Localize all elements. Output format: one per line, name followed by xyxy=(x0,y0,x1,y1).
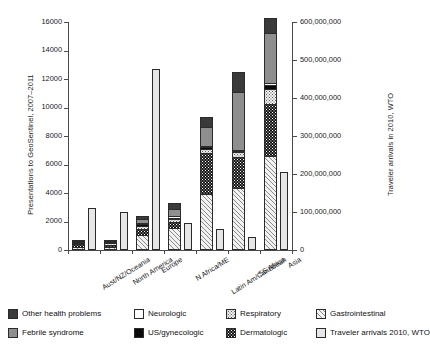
bar-segment-usgyn[interactable] xyxy=(232,152,245,154)
stacked-bar[interactable] xyxy=(72,240,85,250)
bar-segment-febrile[interactable] xyxy=(72,242,85,243)
y-axis-right-title: Traveler arrivals in 2010, WTO xyxy=(386,60,395,230)
bar-segment-febrile[interactable] xyxy=(200,128,213,147)
y-tick-label-right: 200,000,000 xyxy=(300,170,370,178)
x-tick xyxy=(292,250,293,254)
bar-segment-resp[interactable] xyxy=(232,153,245,158)
bar-segment-derm[interactable] xyxy=(232,158,245,189)
bar-segment-febrile[interactable] xyxy=(136,220,149,224)
bar-segment-gi[interactable] xyxy=(104,248,117,250)
bar-segment-febrile[interactable] xyxy=(232,93,245,150)
traveler-arrivals-bar[interactable] xyxy=(120,212,128,250)
bar-segment-derm[interactable] xyxy=(168,223,181,229)
legend-swatch-neuro-icon xyxy=(134,309,144,319)
y-tick-right xyxy=(293,250,297,251)
legend-item-neuro[interactable]: Neurologic xyxy=(134,307,186,321)
y-tick-label-right: 600,000,000 xyxy=(300,18,370,26)
bar-segment-other[interactable] xyxy=(168,204,181,210)
bar-segment-derm[interactable] xyxy=(264,105,277,157)
bar-segment-febrile[interactable] xyxy=(104,242,117,244)
y-tick-label-left: 8000 xyxy=(2,132,62,140)
y-tick-label-right: 400,000,000 xyxy=(300,94,370,102)
bar-segment-gi[interactable] xyxy=(264,157,277,250)
y-tick-label-left: 6000 xyxy=(2,160,62,168)
bar-segment-other[interactable] xyxy=(264,19,277,34)
x-category-label: Asia xyxy=(286,255,303,270)
bar-segment-derm[interactable] xyxy=(136,230,149,236)
bar-segment-neuro[interactable] xyxy=(264,84,277,86)
x-tick xyxy=(132,250,133,254)
legend-label: Neurologic xyxy=(148,309,186,319)
y-tick-label-left: 2000 xyxy=(2,217,62,225)
legend-swatch-febrile-icon xyxy=(8,328,18,338)
traveler-arrivals-bar[interactable] xyxy=(184,223,192,250)
legend-row: Febrile syndromeUS/gynecologicDermatolog… xyxy=(8,326,406,342)
y-tick-left xyxy=(64,222,68,223)
x-tick xyxy=(100,250,101,254)
stacked-bar[interactable] xyxy=(232,73,245,250)
bar-segment-neuro[interactable] xyxy=(232,151,245,152)
legend-swatch-travel-icon xyxy=(316,328,326,338)
bar-segment-other[interactable] xyxy=(200,118,213,128)
traveler-arrivals-bar[interactable] xyxy=(280,172,288,250)
y-tick-label-right: 300,000,000 xyxy=(300,132,370,140)
bar-segment-usgyn[interactable] xyxy=(264,86,277,90)
bar-segment-neuro[interactable] xyxy=(200,147,213,148)
bar-segment-gi[interactable] xyxy=(232,189,245,250)
bar-segment-usgyn[interactable] xyxy=(200,148,213,150)
bar-segment-resp[interactable] xyxy=(264,90,277,105)
bar-segment-other[interactable] xyxy=(72,240,85,241)
bar-segment-gi[interactable] xyxy=(136,236,149,250)
y-tick-label-right: 0 xyxy=(300,246,370,254)
bar-segment-neuro[interactable] xyxy=(136,224,149,225)
legend-item-febrile[interactable]: Febrile syndrome xyxy=(8,326,84,340)
bar-segment-derm[interactable] xyxy=(104,246,117,248)
stacked-bar[interactable] xyxy=(264,19,277,250)
bar-segment-resp[interactable] xyxy=(104,244,117,245)
bar-segment-usgyn[interactable] xyxy=(168,219,181,221)
x-category-label: SS Africa xyxy=(256,255,286,278)
legend-item-travel[interactable]: Traveler arrivals 2010, WTO xyxy=(316,326,430,340)
traveler-arrivals-bar[interactable] xyxy=(88,208,96,250)
stacked-bar[interactable] xyxy=(168,204,181,250)
stacked-bar[interactable] xyxy=(200,118,213,250)
legend-item-other[interactable]: Other health problems xyxy=(8,307,101,321)
bar-segment-resp[interactable] xyxy=(136,227,149,230)
traveler-arrivals-bar[interactable] xyxy=(248,237,256,250)
bar-top-edge xyxy=(264,18,277,19)
y-tick-right xyxy=(293,98,297,99)
bar-segment-gi[interactable] xyxy=(72,248,85,250)
legend-item-gi[interactable]: Gastrointestinal xyxy=(316,307,386,321)
bar-segment-derm[interactable] xyxy=(72,245,85,248)
bar-segment-resp[interactable] xyxy=(200,150,213,154)
legend-item-derm[interactable]: Dermatologic xyxy=(226,326,287,340)
legend-swatch-derm-icon xyxy=(226,328,236,338)
legend-item-usgyn[interactable]: US/gynecologic xyxy=(134,326,204,340)
bar-segment-gi[interactable] xyxy=(200,195,213,250)
bar-segment-resp[interactable] xyxy=(168,220,181,223)
traveler-arrivals-bar[interactable] xyxy=(152,69,160,250)
stacked-bar[interactable] xyxy=(104,240,117,250)
y-tick-label-right: 100,000,000 xyxy=(300,208,370,216)
traveler-arrivals-bar[interactable] xyxy=(216,229,224,250)
bar-segment-febrile[interactable] xyxy=(168,210,181,217)
x-category-label: N Africa/ME xyxy=(194,255,231,283)
bar-segment-other[interactable] xyxy=(232,73,245,94)
legend-label: US/gynecologic xyxy=(148,328,204,338)
bar-segment-febrile[interactable] xyxy=(264,34,277,84)
bar-segment-other[interactable] xyxy=(104,240,117,241)
bar-segment-gi[interactable] xyxy=(168,229,181,250)
x-tick xyxy=(164,250,165,254)
bar-segment-neuro[interactable] xyxy=(168,217,181,218)
y-tick-label-right: 500,000,000 xyxy=(300,56,370,64)
bar-segment-derm[interactable] xyxy=(200,154,213,195)
legend-label: Gastrointestinal xyxy=(330,309,386,319)
bar-segment-usgyn[interactable] xyxy=(136,225,149,227)
legend-label: Dermatologic xyxy=(240,328,287,338)
legend-item-resp[interactable]: Respiratory xyxy=(226,307,281,321)
bar-segment-other[interactable] xyxy=(136,217,149,220)
stacked-bar[interactable] xyxy=(136,217,149,250)
bar-top-edge xyxy=(232,72,245,73)
y-tick-label-left: 12000 xyxy=(2,75,62,83)
